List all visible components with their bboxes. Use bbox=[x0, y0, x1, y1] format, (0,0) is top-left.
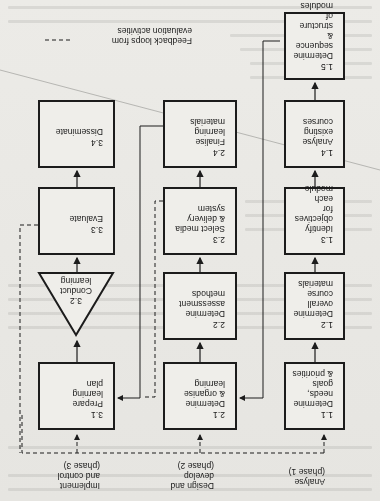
scanned-page: 1.1 Determine needs, goals & priorities … bbox=[0, 0, 380, 501]
step-number: 3.3 bbox=[46, 225, 103, 235]
step-2-1-box: 2.1 Determine & organise learning bbox=[163, 362, 237, 430]
step-number: 2.3 bbox=[171, 235, 225, 245]
step-1-3-box: 1.3 Identify objectives for each module bbox=[284, 187, 345, 255]
legend-feedback-loops: Feedback loops from evaluation activitie… bbox=[112, 26, 192, 46]
step-text: Evaluate bbox=[46, 214, 103, 224]
step-number: 2.1 bbox=[171, 410, 225, 420]
step-text: Identify objectives for each module bbox=[292, 184, 333, 234]
step-2-3-box: 2.3 Select media & delivery system bbox=[163, 187, 237, 255]
step-number: 3.1 bbox=[46, 410, 103, 420]
step-number: 3.2 bbox=[50, 296, 102, 306]
step-3-4-box: 3.4 Disseminate bbox=[38, 100, 115, 168]
step-1-5-box: 1.5 Determine sequence & structure of mo… bbox=[284, 12, 345, 80]
step-text: Determine assessment methods bbox=[171, 289, 225, 319]
step-2-2-box: 2.2 Determine assessment methods bbox=[163, 272, 237, 340]
phase-1-label: Analyse (phase 1) bbox=[289, 467, 325, 487]
step-number: 1.2 bbox=[292, 320, 333, 330]
step-number: 1.4 bbox=[292, 148, 333, 158]
step-number: 1.3 bbox=[292, 235, 333, 245]
step-1-1-box: 1.1 Determine needs, goals & priorities bbox=[284, 362, 345, 430]
step-number: 2.4 bbox=[171, 148, 225, 158]
step-number: 1.5 bbox=[292, 62, 333, 72]
step-text: Determine sequence & structure of module… bbox=[292, 1, 333, 61]
step-1-2-box: 1.2 Determine overall course materials bbox=[284, 272, 345, 340]
phase-3-label: Implement and control (phase 3) bbox=[57, 461, 100, 491]
step-text: Select media & delivery system bbox=[171, 204, 225, 234]
step-text: Finalise learning materials bbox=[171, 117, 225, 147]
step-text: Determine overall course materials bbox=[292, 279, 333, 319]
flowchart: 1.1 Determine needs, goals & priorities … bbox=[0, 0, 380, 501]
step-2-4-box: 2.4 Finalise learning materials bbox=[163, 100, 237, 168]
step-text: Conduct learning bbox=[50, 276, 102, 296]
step-1-4-box: 1.4 Analyse existing courses bbox=[284, 100, 345, 168]
step-text: Determine & organise learning bbox=[171, 379, 225, 409]
step-text: Disseminate bbox=[46, 127, 103, 137]
step-3-2-label: 3.2 Conduct learning bbox=[50, 276, 102, 306]
step-text: Prepare learning plan bbox=[46, 379, 103, 409]
step-number: 2.2 bbox=[171, 320, 225, 330]
step-number: 1.1 bbox=[292, 410, 333, 420]
step-number: 3.4 bbox=[46, 138, 103, 148]
step-text: Determine needs, goals & priorities bbox=[292, 369, 333, 409]
step-text: Analyse existing courses bbox=[292, 117, 333, 147]
step-3-3-box: 3.3 Evaluate bbox=[38, 187, 115, 255]
step-3-1-box: 3.1 Prepare learning plan bbox=[38, 362, 115, 430]
phase-2-label: Design and develop (phase 2) bbox=[171, 461, 214, 491]
